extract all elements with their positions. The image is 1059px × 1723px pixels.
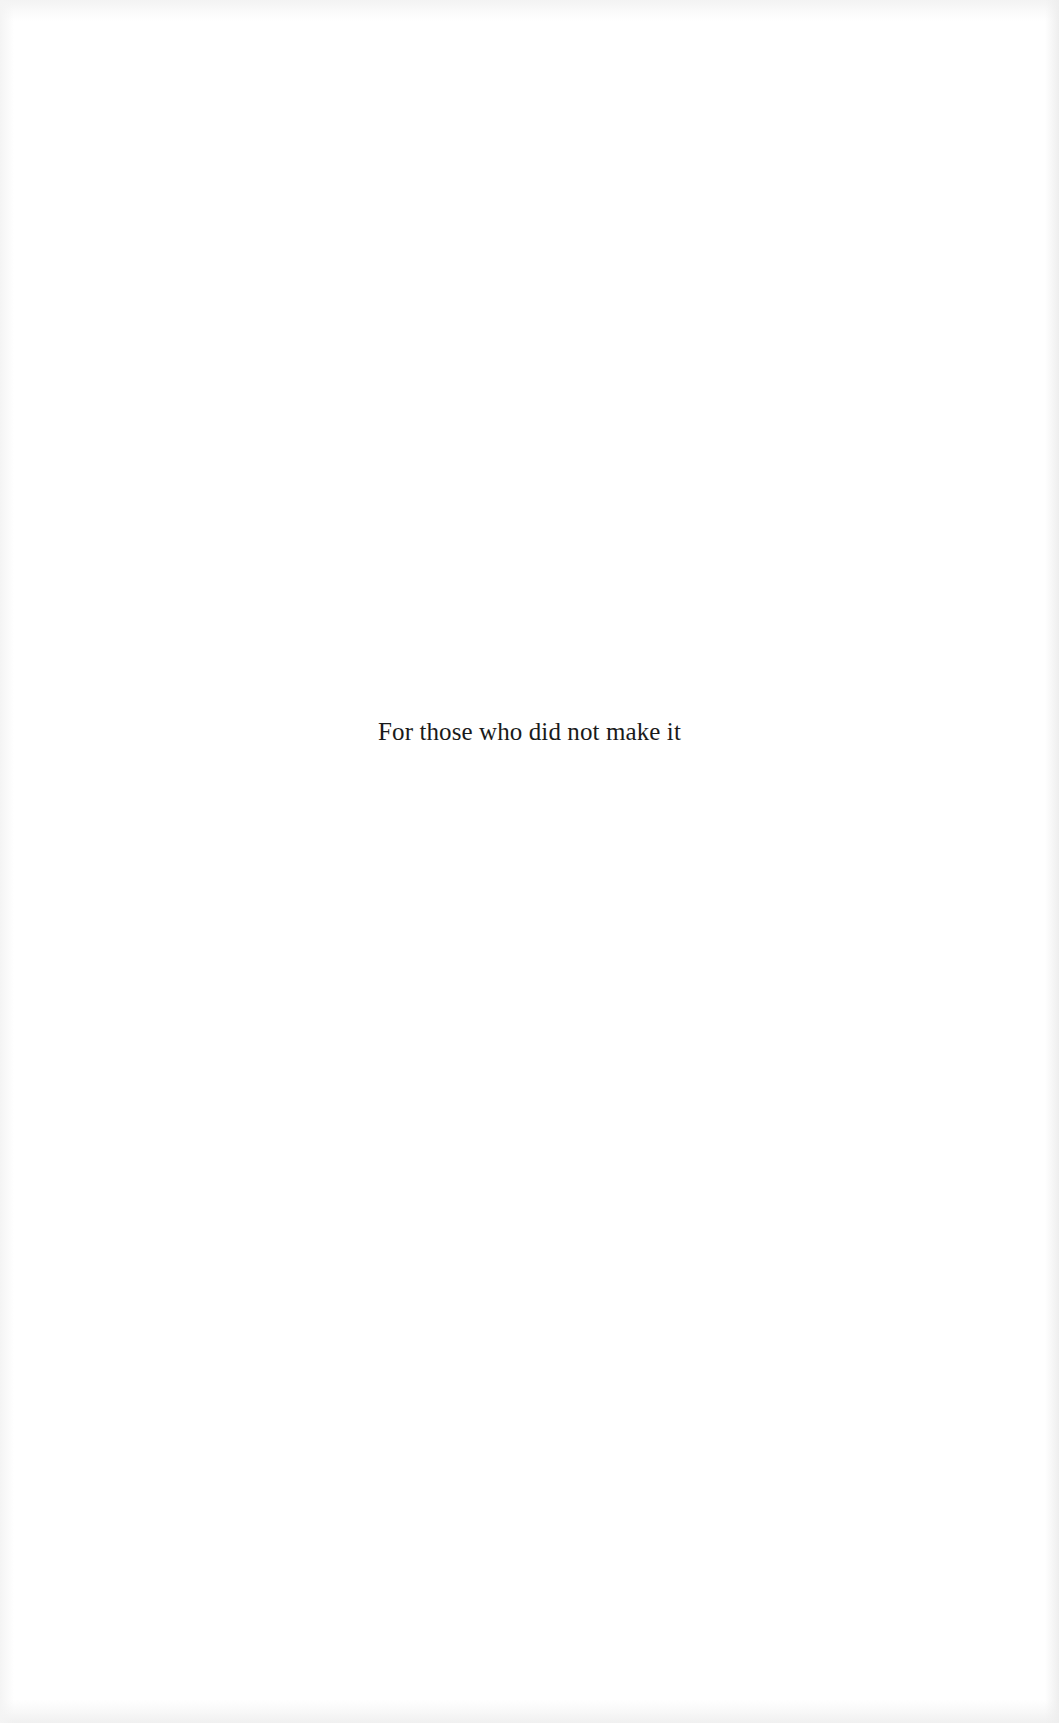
book-page: For those who did not make it [0, 0, 1059, 1723]
dedication-text: For those who did not make it [0, 715, 1059, 749]
scan-edge-left [0, 0, 14, 1723]
scan-edge-bottom [0, 1699, 1059, 1723]
scan-edge-right [1045, 0, 1059, 1723]
scan-edge-top [0, 0, 1059, 22]
